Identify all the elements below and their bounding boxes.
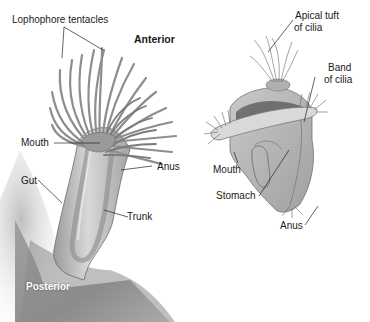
label-stomach: Stomach: [216, 190, 255, 201]
label-mouth-adult: Mouth: [21, 137, 49, 148]
diagram-illustration: [0, 0, 370, 322]
label-anterior: Anterior: [134, 34, 175, 45]
apical-tuft-cilia: [250, 36, 298, 82]
lophophore-tentacles: [50, 48, 176, 164]
label-apical-tuft-line2: of cilia: [294, 22, 322, 33]
diagram-figure: Lophophore tentacles Anterior Mouth Anus…: [0, 0, 370, 322]
label-trunk: Trunk: [127, 211, 152, 222]
label-band-line2: of cilia: [324, 74, 352, 85]
label-mouth-larva: Mouth: [213, 164, 241, 175]
label-lophophore-tentacles: Lophophore tentacles: [12, 14, 108, 25]
label-band: Band: [328, 62, 351, 73]
label-anus-larva: Anus: [280, 220, 303, 231]
label-apical-tuft: Apical tuft: [295, 10, 339, 21]
label-anus-adult: Anus: [157, 161, 180, 172]
label-posterior: Posterior: [26, 281, 70, 292]
label-gut: Gut: [21, 175, 37, 186]
